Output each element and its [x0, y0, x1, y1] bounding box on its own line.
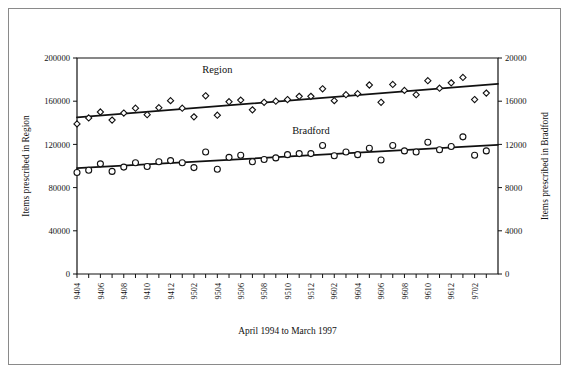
data-point-region — [109, 117, 115, 123]
data-point-region — [460, 74, 466, 80]
data-point-bradford — [273, 155, 279, 161]
data-point-bradford — [343, 149, 349, 155]
data-point-region — [331, 98, 337, 104]
right-tick-label: 20000 — [505, 53, 526, 63]
prescribing-scatter-chart: 04000080000120000160000200000 0400080001… — [9, 9, 562, 366]
left-tick-label: 0 — [66, 269, 70, 279]
figure-border: 04000080000120000160000200000 0400080001… — [8, 8, 561, 365]
data-point-bradford — [460, 134, 466, 140]
data-point-region — [319, 86, 325, 92]
x-tick-label: 9604 — [354, 283, 363, 299]
data-point-bradford — [448, 144, 454, 150]
x-tick-label: 9510 — [284, 283, 293, 299]
data-point-bradford — [261, 157, 267, 163]
data-point-bradford — [366, 145, 372, 151]
data-point-bradford — [156, 159, 162, 165]
data-point-bradford — [121, 164, 127, 170]
data-point-bradford — [285, 152, 291, 158]
series-annotation-region: Region — [202, 64, 233, 75]
data-point-region — [167, 98, 173, 104]
data-point-region — [366, 82, 372, 88]
left-tick-label: 80000 — [49, 183, 70, 193]
data-point-region — [378, 99, 384, 105]
x-tick-label: 9608 — [401, 283, 410, 299]
data-points-bradford — [74, 134, 489, 176]
axes-frame — [77, 58, 498, 274]
chart-figure: 04000080000120000160000200000 0400080001… — [9, 9, 562, 366]
data-point-region — [472, 96, 478, 102]
data-point-region — [401, 87, 407, 93]
data-point-bradford — [249, 159, 255, 165]
data-point-bradford — [320, 142, 326, 148]
right-tick-label: 8000 — [505, 183, 522, 193]
data-point-bradford — [355, 152, 361, 158]
x-axis-title: April 1994 to March 1997 — [238, 326, 337, 336]
x-tick-label: 9612 — [447, 283, 456, 299]
data-point-region — [97, 109, 103, 115]
data-point-region — [436, 85, 442, 91]
data-point-bradford — [390, 142, 396, 148]
left-tick-label: 40000 — [49, 226, 70, 236]
data-point-region — [203, 93, 209, 99]
data-point-region — [413, 92, 419, 98]
data-point-bradford — [437, 147, 443, 153]
series-annotation-bradford: Bradford — [292, 125, 330, 136]
data-point-bradford — [401, 148, 407, 154]
right-tick-label: 0 — [505, 269, 509, 279]
data-point-region — [448, 80, 454, 86]
x-tick-label: 9602 — [330, 283, 339, 299]
data-point-bradford — [203, 149, 209, 155]
data-point-bradford — [132, 160, 138, 166]
x-tick-label: 9412 — [167, 283, 176, 299]
x-tick-label: 9408 — [120, 283, 129, 299]
y-axis-title-left: Items prescribed in Region — [21, 115, 31, 217]
data-point-bradford — [179, 160, 185, 166]
left-tick-label: 200000 — [44, 53, 70, 63]
data-point-region — [156, 105, 162, 111]
data-point-bradford — [331, 153, 337, 159]
data-point-bradford — [226, 154, 232, 160]
data-point-region — [214, 112, 220, 118]
x-tick-label: 9410 — [143, 283, 152, 299]
data-point-bradford — [296, 151, 302, 157]
right-axis-tick-labels: 040008000120001600020000 — [505, 53, 526, 279]
x-tick-label: 9502 — [190, 283, 199, 299]
x-tick-label: 9512 — [307, 283, 316, 299]
x-tick-label: 9404 — [73, 283, 82, 299]
right-tick-label: 12000 — [505, 140, 526, 150]
data-point-bradford — [483, 148, 489, 154]
data-point-bradford — [425, 139, 431, 145]
x-tick-label: 9508 — [260, 283, 269, 299]
data-point-region — [238, 97, 244, 103]
left-tick-label: 120000 — [44, 140, 70, 150]
x-tick-label: 9406 — [97, 283, 106, 299]
data-point-region — [261, 99, 267, 105]
x-axis-tick-labels: 9404940694089410941295029504950695089510… — [73, 283, 480, 299]
data-point-region — [226, 99, 232, 105]
data-point-region — [179, 105, 185, 111]
data-point-bradford — [168, 158, 174, 164]
data-point-bradford — [74, 169, 80, 175]
data-point-region — [296, 93, 302, 99]
data-point-bradford — [308, 151, 314, 157]
data-point-region — [121, 110, 127, 116]
data-point-bradford — [97, 161, 103, 167]
x-tick-label: 9606 — [377, 283, 386, 299]
data-point-region — [390, 81, 396, 87]
data-point-region — [273, 98, 279, 104]
data-point-bradford — [238, 152, 244, 158]
data-point-bradford — [472, 152, 478, 158]
data-point-region — [483, 90, 489, 96]
x-tick-label: 9506 — [237, 283, 246, 299]
data-point-bradford — [378, 157, 384, 163]
data-point-bradford — [191, 165, 197, 171]
data-point-region — [425, 78, 431, 84]
x-tick-label: 9610 — [424, 283, 433, 299]
data-point-bradford — [413, 149, 419, 155]
right-tick-label: 4000 — [505, 226, 522, 236]
data-point-bradford — [86, 167, 92, 173]
data-point-bradford — [144, 164, 150, 170]
data-point-bradford — [214, 166, 220, 172]
data-point-region — [249, 107, 255, 113]
data-point-region — [132, 105, 138, 111]
